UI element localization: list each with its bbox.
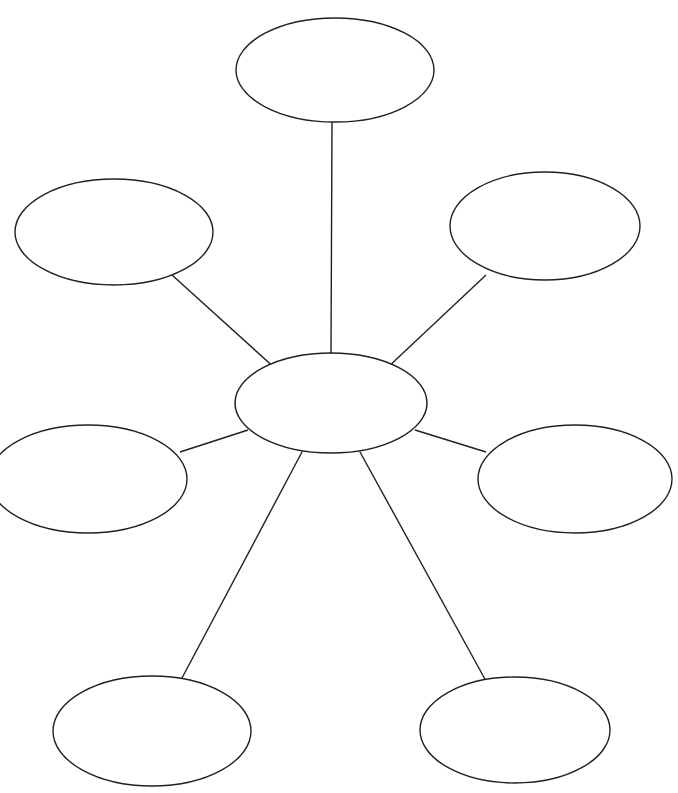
link-center-top: [331, 122, 332, 353]
node-mid-right[interactable]: [478, 425, 672, 533]
link-center-upper-left: [172, 275, 277, 370]
link-center-bottom-right: [360, 452, 486, 681]
link-center-mid-left: [180, 430, 248, 452]
node-bottom-left[interactable]: [53, 676, 251, 786]
diagram-canvas: [0, 0, 678, 793]
node-top[interactable]: [236, 18, 434, 122]
node-upper-right[interactable]: [450, 172, 640, 280]
node-upper-left[interactable]: [15, 179, 213, 285]
link-center-upper-right: [386, 275, 486, 369]
center[interactable]: [235, 353, 427, 453]
spider-map-svg: [0, 0, 678, 793]
node-mid-left[interactable]: [0, 425, 187, 533]
link-center-mid-right: [415, 430, 486, 452]
link-center-bottom-left: [182, 452, 302, 678]
node-layer: [0, 18, 672, 786]
node-bottom-right[interactable]: [420, 677, 610, 783]
